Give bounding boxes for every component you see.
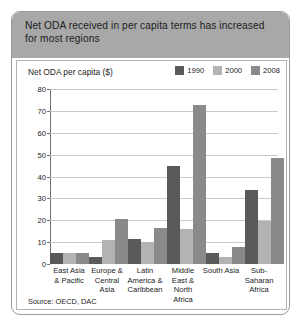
y-tick-label: 80 xyxy=(38,85,46,94)
y-axis-title: Net ODA per capita ($) xyxy=(28,67,113,77)
bar-groups xyxy=(50,89,278,264)
bar-1990 xyxy=(167,166,180,264)
legend-item-2000: 2000 xyxy=(213,66,242,75)
bar-2008 xyxy=(76,253,89,264)
bar-2000 xyxy=(258,221,271,264)
page-title: Net ODA received in per capita terms has… xyxy=(25,19,276,46)
bar-2008 xyxy=(115,219,128,264)
legend-item-2008: 2008 xyxy=(251,66,280,75)
legend-label-2008: 2008 xyxy=(263,66,280,75)
y-tick-label: 40 xyxy=(38,172,46,181)
bar-group xyxy=(245,89,284,264)
bar-2000 xyxy=(219,257,232,264)
y-tick-label: 10 xyxy=(38,238,46,247)
x-axis-label: Sub-Saharan Africa xyxy=(240,266,278,304)
bar-2000 xyxy=(141,242,154,264)
y-tick-label: 0 xyxy=(42,260,46,269)
chart-legend: 199020002008 xyxy=(175,66,280,75)
bar-2008 xyxy=(232,247,245,265)
bar-2000 xyxy=(180,229,193,264)
y-tick-label: 60 xyxy=(38,128,46,137)
bar-2000 xyxy=(102,240,115,264)
bar-group xyxy=(206,89,245,264)
chart-card: Net ODA per capita ($) 199020002008 0102… xyxy=(16,60,287,310)
legend-swatch-1990 xyxy=(175,66,184,75)
bar-1990 xyxy=(128,239,141,264)
x-axis-label: Middle East & North Africa xyxy=(164,266,202,304)
legend-label-2000: 2000 xyxy=(225,66,242,75)
bar-2008 xyxy=(154,228,167,264)
plot-area: 01020304050607080 xyxy=(50,89,278,264)
figure-container: Net ODA received in per capita terms has… xyxy=(11,11,290,315)
bar-2008 xyxy=(193,105,206,264)
legend-label-1990: 1990 xyxy=(187,66,204,75)
title-band: Net ODA received in per capita terms has… xyxy=(12,12,289,58)
bar-1990 xyxy=(50,253,63,264)
x-axis-label: Latin America & Caribbean xyxy=(126,266,164,304)
legend-item-1990: 1990 xyxy=(175,66,204,75)
legend-swatch-2000 xyxy=(213,66,222,75)
source-note: Source: OECD, DAC xyxy=(28,297,97,306)
y-tick-label: 30 xyxy=(38,194,46,203)
x-axis-label: South Asia xyxy=(202,266,240,304)
y-tick-label: 20 xyxy=(38,216,46,225)
legend-swatch-2008 xyxy=(251,66,260,75)
bar-1990 xyxy=(89,257,102,264)
y-tickmark xyxy=(47,264,50,265)
y-tick-label: 50 xyxy=(38,150,46,159)
bar-group xyxy=(167,89,206,264)
bar-2000 xyxy=(63,253,76,264)
bar-1990 xyxy=(245,190,258,264)
bar-group xyxy=(128,89,167,264)
bar-group xyxy=(50,89,89,264)
bar-1990 xyxy=(206,253,219,264)
y-tick-label: 70 xyxy=(38,106,46,115)
bar-2008 xyxy=(271,158,284,264)
bar-group xyxy=(89,89,128,264)
